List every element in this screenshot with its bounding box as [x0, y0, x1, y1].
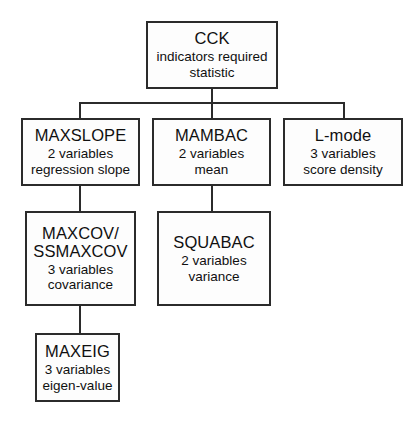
edge-maxcov-to-maxeig — [79, 306, 81, 334]
edge-cck-to-maxslope — [79, 102, 81, 119]
edge-cck-to-lmode — [343, 102, 345, 119]
edge-maxslope-to-maxcov — [79, 186, 81, 212]
edge-cck-to-mambac — [211, 102, 213, 119]
node-mambac-title: MAMBAC — [175, 126, 248, 145]
node-mambac[interactable]: MAMBAC 2 variables mean — [152, 118, 271, 186]
node-maxcov-ssmaxcov[interactable]: MAXCOV/ SSMAXCOV 3 variables covariance — [25, 211, 136, 306]
node-lmode-title: L-mode — [315, 126, 372, 145]
node-lmode-subtitle-1: 3 variables — [310, 146, 375, 162]
node-lmode-subtitle-2: score density — [303, 162, 383, 178]
flowchart-diagram: CCK indicators required statistic MAXSLO… — [0, 0, 419, 425]
node-maxeig-subtitle-2: eigen-value — [43, 378, 113, 394]
node-maxcov-subtitle-2: covariance — [48, 277, 113, 293]
node-squabac[interactable]: SQUABAC 2 variables variance — [157, 211, 271, 306]
node-maxcov-subtitle-1: 3 variables — [48, 262, 113, 278]
node-maxslope-subtitle-2: regression slope — [31, 162, 130, 178]
node-mambac-subtitle-1: 2 variables — [179, 146, 244, 162]
node-cck-title: CCK — [194, 29, 229, 48]
node-squabac-subtitle-1: 2 variables — [181, 253, 246, 269]
node-cck[interactable]: CCK indicators required statistic — [146, 21, 278, 89]
edge-mambac-to-squabac — [211, 186, 213, 212]
node-cck-subtitle-1: indicators required — [156, 49, 267, 65]
node-maxeig-subtitle-1: 3 variables — [45, 362, 110, 378]
node-maxeig[interactable]: MAXEIG 3 variables eigen-value — [35, 333, 120, 402]
node-maxcov-title-line-1: MAXCOV/ — [42, 224, 119, 242]
node-maxeig-title: MAXEIG — [45, 342, 110, 361]
node-maxslope[interactable]: MAXSLOPE 2 variables regression slope — [21, 118, 140, 186]
node-lmode[interactable]: L-mode 3 variables score density — [283, 118, 403, 186]
node-maxcov-title-line-2: SSMAXCOV — [33, 242, 127, 260]
node-squabac-title: SQUABAC — [173, 233, 254, 252]
node-maxslope-subtitle-1: 2 variables — [48, 146, 113, 162]
node-cck-subtitle-2: statistic — [189, 65, 234, 81]
node-mambac-subtitle-2: mean — [195, 162, 229, 178]
node-maxslope-title: MAXSLOPE — [35, 126, 127, 145]
node-squabac-subtitle-2: variance — [188, 269, 239, 285]
